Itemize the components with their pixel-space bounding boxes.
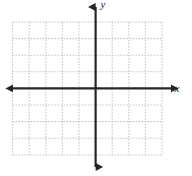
coordinate-plane-svg: x y [0, 0, 192, 176]
y-axis-label: y [100, 0, 106, 10]
x-axis-label: x [174, 82, 180, 94]
coordinate-plane-figure: x y [0, 0, 192, 176]
